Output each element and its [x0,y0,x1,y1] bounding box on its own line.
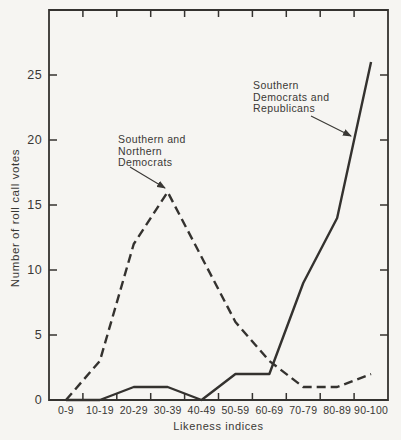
y-axis-title: Number of roll call votes [9,149,21,287]
x-tick-label: 70-79 [289,404,317,416]
x-tick-label: 40-49 [188,404,216,416]
y-tick-label: 10 [27,263,42,277]
annotation-southern-northern-democrats: Southern and Northern Democrats [118,134,186,169]
y-tick-label: 5 [35,328,42,342]
x-tick-label: 60-69 [255,404,283,416]
roll-call-likeness-line-chart: 05101520250-910-1920-2930-3940-4950-5960… [0,0,401,440]
annotation-arrow [130,167,165,188]
chart-canvas: 05101520250-910-1920-2930-3940-4950-5960… [0,0,401,440]
annotation-arrow [311,116,351,136]
annotation-line: Southern and [118,134,186,146]
x-axis-title: Likeness indices [49,420,388,432]
y-tick-label: 20 [27,133,42,147]
annotation-line: Republicans [253,103,329,115]
plot-frame [49,10,388,400]
x-tick-label: 20-29 [120,404,148,416]
annotation-southern-democrats-republicans: Southern Democrats and Republicans [253,80,329,115]
x-tick-label: 10-19 [86,404,114,416]
annotation-line: Democrats [118,157,186,169]
x-tick-label: 90-100 [354,404,388,416]
x-tick-label: 50-59 [222,404,250,416]
annotation-line: Southern [253,80,329,92]
y-tick-label: 15 [27,198,42,212]
y-tick-label: 0 [35,393,42,407]
x-tick-label: 0-9 [58,404,74,416]
dashed-series-line [66,192,371,400]
x-tick-label: 80-89 [323,404,351,416]
x-tick-label: 30-39 [154,404,182,416]
y-tick-label: 25 [27,68,42,82]
